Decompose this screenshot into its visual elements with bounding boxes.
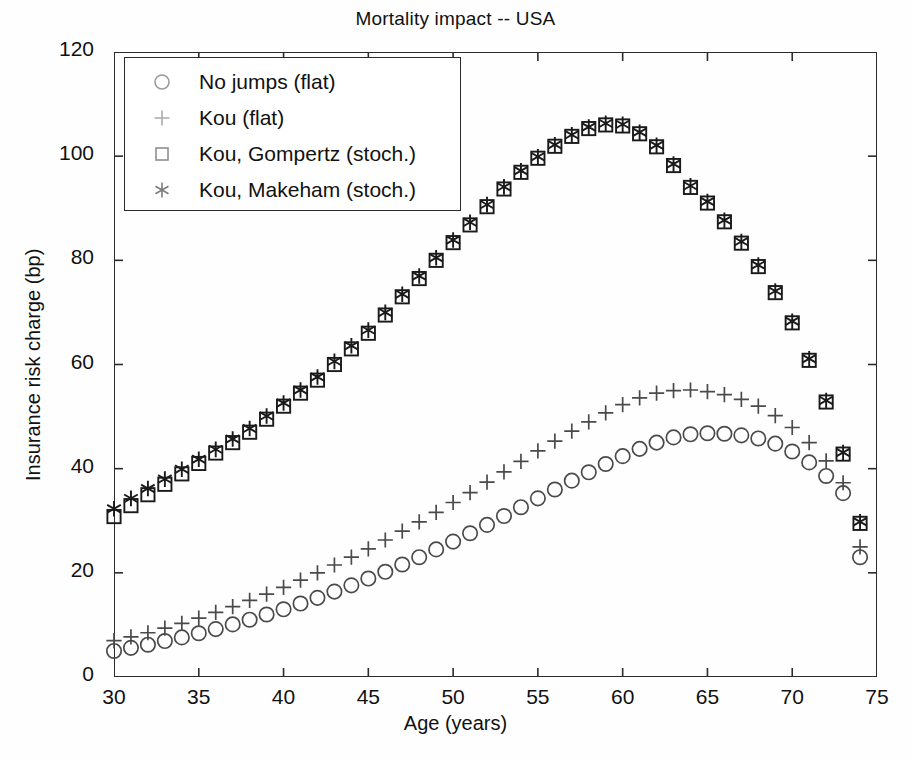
legend-label: No jumps (flat) (199, 70, 336, 94)
y-tick-label: 100 (24, 141, 94, 165)
y-tick-label: 20 (24, 558, 94, 582)
circle-icon (125, 72, 199, 92)
x-tick-label: 35 (169, 685, 229, 709)
x-tick-label: 65 (677, 685, 737, 709)
x-tick-label: 45 (338, 685, 398, 709)
y-axis-label: Insurance risk charge (bp) (22, 248, 45, 480)
x-tick-label: 75 (847, 685, 907, 709)
legend-item-kou-makeham[interactable]: Kou, Makeham (stoch.) (125, 172, 462, 208)
series-circle (107, 426, 867, 658)
legend-label: Kou, Gompertz (stoch.) (199, 142, 416, 166)
chart-figure: Mortality impact -- USA 020406080100120 … (0, 0, 911, 762)
x-tick-label: 70 (762, 685, 822, 709)
y-tick-label: 120 (24, 37, 94, 61)
legend-label: Kou (flat) (199, 106, 284, 130)
legend-item-kou-gompertz[interactable]: Kou, Gompertz (stoch.) (125, 136, 462, 172)
plus-icon (125, 108, 199, 128)
legend-item-kou-flat[interactable]: Kou (flat) (125, 100, 462, 136)
square-icon (125, 144, 199, 164)
series-plus (106, 382, 867, 648)
asterisk-icon (125, 180, 199, 200)
legend-item-no-jumps-flat[interactable]: No jumps (flat) (125, 64, 462, 100)
x-tick-label: 30 (84, 685, 144, 709)
chart-legend: No jumps (flat) Kou (flat) Kou, Gompertz… (124, 57, 461, 211)
x-tick-label: 40 (254, 685, 314, 709)
x-axis-label: Age (years) (0, 712, 911, 735)
legend-label: Kou, Makeham (stoch.) (199, 178, 416, 202)
x-tick-label: 60 (593, 685, 653, 709)
x-tick-label: 50 (423, 685, 483, 709)
x-tick-label: 55 (508, 685, 568, 709)
y-tick-label: 0 (24, 662, 94, 686)
